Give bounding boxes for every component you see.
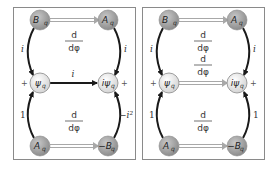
edge-label-left-top: i [150, 44, 153, 54]
svg-text:q: q [111, 82, 115, 90]
double-arrow-top [50, 16, 100, 24]
deriv-denominator: dφ [68, 123, 80, 133]
svg-text:q: q [42, 82, 46, 90]
node-a-q-bottom: A q [159, 136, 179, 156]
plus-right: + [250, 79, 257, 88]
double-arrow-bottom [50, 142, 99, 150]
svg-text:q: q [44, 19, 48, 27]
deriv-numerator: d [200, 110, 206, 120]
double-arrow-bottom [179, 142, 228, 150]
svg-text:q: q [42, 145, 46, 153]
svg-text:q: q [240, 145, 244, 153]
edge-label-right-bot: 1 [253, 110, 259, 120]
double-arrow-top [179, 16, 229, 24]
svg-text:B: B [162, 15, 168, 25]
plus-left: + [21, 79, 28, 88]
deriv-denominator: dφ [68, 43, 80, 53]
arrow-a-to-psi [157, 92, 163, 138]
edge-label-left-bot: 1 [149, 110, 155, 120]
deriv-numerator: d [71, 110, 77, 120]
svg-text:iψ: iψ [102, 78, 112, 88]
edge-label-left-bot: 1 [20, 110, 26, 120]
node-neg-b-q: −B q [227, 136, 247, 156]
node-psi-q: ψ q [159, 73, 179, 93]
edge-label-middle: i [72, 69, 75, 79]
deriv-numerator: d [200, 30, 206, 40]
deriv-numerator: d [71, 30, 77, 40]
deriv-denominator: dφ [197, 123, 209, 133]
deriv-denominator: dφ [197, 43, 209, 53]
arrow-a-to-ipsi [243, 28, 249, 75]
node-a-q-bottom: A q [30, 136, 50, 156]
svg-text:q: q [171, 82, 175, 90]
panel-left: d dφ i i i + + 1 −i² d dφ B q [14, 8, 136, 160]
arrow-a-to-ipsi [114, 28, 120, 75]
node-psi-q: ψ q [30, 73, 50, 93]
double-arrow-middle [179, 79, 228, 87]
svg-text:q: q [239, 19, 243, 27]
node-b-q: B q [159, 10, 179, 30]
arrow-b-to-psi [28, 28, 34, 75]
svg-text:q: q [173, 19, 177, 27]
node-ipsi-q: iψ q [98, 73, 118, 93]
svg-text:−B: −B [227, 141, 241, 151]
panel-right: d dφ i i d dφ + + 1 1 d dφ [143, 8, 265, 160]
node-a-q: A q [98, 10, 118, 30]
arrow-negb-to-ipsi [243, 92, 249, 138]
svg-text:q: q [240, 82, 244, 90]
svg-text:iψ: iψ [231, 78, 241, 88]
svg-text:A: A [162, 141, 169, 151]
plus-right: + [121, 79, 128, 88]
svg-text:B: B [33, 15, 39, 25]
svg-text:A: A [101, 15, 108, 25]
svg-text:A: A [230, 15, 237, 25]
diagram-canvas: d dφ i i i + + 1 −i² d dφ B q [0, 0, 278, 169]
deriv-denominator: dφ [197, 67, 209, 77]
plus-left: + [150, 79, 157, 88]
deriv-numerator: d [200, 54, 206, 64]
node-ipsi-q: iψ q [227, 73, 247, 93]
edge-label-right-bot: −i² [119, 110, 133, 120]
edge-label-left-top: i [21, 44, 24, 54]
edge-label-right-top: i [253, 44, 256, 54]
svg-text:q: q [111, 145, 115, 153]
svg-text:q: q [171, 145, 175, 153]
svg-text:q: q [110, 19, 114, 27]
edge-label-right-top: i [124, 44, 127, 54]
arrow-a-to-psi [28, 92, 34, 138]
svg-text:A: A [33, 141, 40, 151]
node-neg-b-q: −B q [98, 136, 118, 156]
arrow-b-to-psi [157, 28, 163, 75]
svg-text:−B: −B [98, 141, 112, 151]
node-b-q: B q [30, 10, 50, 30]
node-a-q: A q [227, 10, 247, 30]
